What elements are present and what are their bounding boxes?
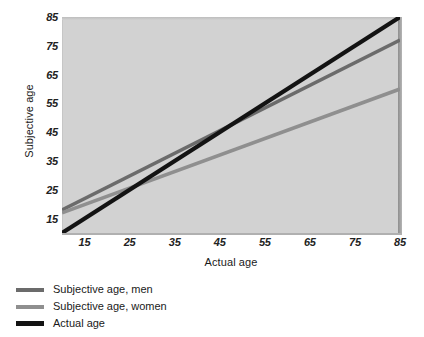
x-tick-label: 85: [380, 236, 420, 248]
y-tick-label: 35: [28, 155, 58, 167]
legend-item[interactable]: Actual age: [16, 315, 316, 332]
legend-color-swatch: [16, 321, 44, 326]
y-tick-label: 15: [28, 213, 58, 225]
legend-item-label: Subjective age, women: [53, 300, 167, 313]
plot-area-wrapper: [62, 17, 402, 235]
y-tick-label: 75: [28, 40, 58, 52]
legend-color-swatch: [16, 288, 44, 292]
chart-figure: Subjective age 1525354555657585 15253545…: [0, 0, 424, 337]
x-axis-title: Actual age: [62, 256, 400, 268]
x-tick-label: 25: [110, 236, 150, 248]
y-axis-tick-labels: 1525354555657585: [28, 17, 58, 233]
legend-item-label: Actual age: [53, 317, 105, 330]
y-tick-label: 85: [28, 11, 58, 23]
chart-series-lines: [62, 17, 400, 233]
legend-color-swatch: [16, 305, 44, 309]
y-tick-label: 45: [28, 126, 58, 138]
legend-item[interactable]: Subjective age, women: [16, 298, 316, 315]
series-line: [62, 17, 400, 233]
legend-item-label: Subjective age, men: [53, 283, 153, 296]
x-tick-label: 65: [290, 236, 330, 248]
legend-item[interactable]: Subjective age, men: [16, 281, 316, 298]
y-tick-label: 55: [28, 97, 58, 109]
x-tick-label: 45: [200, 236, 240, 248]
x-tick-label: 55: [245, 236, 285, 248]
x-tick-label: 35: [155, 236, 195, 248]
series-line: [62, 89, 400, 213]
chart-legend: Subjective age, menSubjective age, women…: [16, 281, 316, 332]
y-tick-label: 25: [28, 184, 58, 196]
x-axis-tick-labels: 1525354555657585: [62, 236, 400, 254]
x-tick-label: 15: [65, 236, 105, 248]
plot-bottom-rail: [62, 233, 402, 235]
x-tick-label: 75: [335, 236, 375, 248]
y-tick-label: 65: [28, 69, 58, 81]
